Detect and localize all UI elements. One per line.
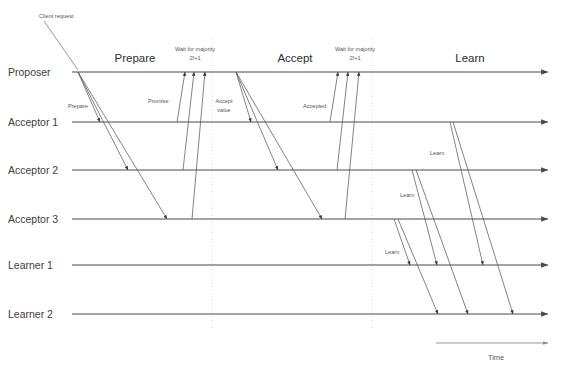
client-request-leader-line <box>44 21 78 70</box>
wait-majority-note-2-line1: Wait for majority <box>335 46 375 52</box>
lane-label-proposer: Proposer <box>8 66 51 78</box>
message-accepted-from-acceptor3 <box>345 72 359 219</box>
message-learn-acceptor2-to-learner2 <box>416 170 468 314</box>
wait-majority-notes: Wait for majority 2f+1 Wait for majority… <box>175 46 375 61</box>
message-promise-from-acceptor2 <box>183 72 194 170</box>
lane-label-acceptor2: Acceptor 2 <box>8 164 58 176</box>
lane-label-acceptor3: Acceptor 3 <box>8 213 58 225</box>
message-accept-to-acceptor3 <box>236 72 322 219</box>
message-label-accept-value-line2: value <box>217 107 230 113</box>
messages-prepare: Prepare <box>68 72 167 219</box>
phase-label-prepare: Prepare <box>115 52 156 64</box>
message-promise-from-acceptor1 <box>177 72 185 122</box>
lane-labels: Proposer Acceptor 1 Acceptor 2 Acceptor … <box>8 66 58 320</box>
message-accept-to-acceptor2 <box>236 72 278 170</box>
messages-accept: Accept value <box>215 72 322 219</box>
message-learn-acceptor1-to-learner1 <box>450 122 483 265</box>
message-learn-acceptor1-to-learner2 <box>453 122 513 314</box>
phase-label-learn: Learn <box>455 52 484 64</box>
message-label-promise: Promise <box>148 98 169 104</box>
message-prepare-to-acceptor3 <box>78 72 167 219</box>
message-label-learn-acceptor3: Learn <box>385 249 399 255</box>
message-label-accepted: Accepted <box>303 103 326 109</box>
message-prepare-to-acceptor2 <box>78 72 128 170</box>
wait-majority-note-1-line2: 2f+1 <box>189 55 200 61</box>
message-accepted-from-acceptor2 <box>337 72 348 170</box>
messages-accepted: Accepted <box>303 72 359 219</box>
message-accepted-from-acceptor1 <box>330 72 338 122</box>
time-axis-label: Time <box>488 353 504 362</box>
phase-label-accept: Accept <box>277 52 313 64</box>
message-prepare-to-acceptor1 <box>78 72 100 122</box>
paxos-sequence-diagram: Proposer Acceptor 1 Acceptor 2 Acceptor … <box>0 0 564 371</box>
message-label-accept-value-line1: Accept <box>215 98 233 104</box>
message-label-prepare: Prepare <box>68 103 88 109</box>
message-learn-acceptor3-to-learner2 <box>398 219 438 314</box>
lane-label-learner2: Learner 2 <box>8 308 53 320</box>
wait-majority-note-1-line1: Wait for majority <box>175 46 215 52</box>
phase-labels: Prepare Accept Learn <box>115 52 485 64</box>
lane-label-learner1: Learner 1 <box>8 259 53 271</box>
message-label-learn-acceptor2: Learn <box>400 192 414 198</box>
message-promise-from-acceptor3 <box>192 72 205 219</box>
lane-label-acceptor1: Acceptor 1 <box>8 116 58 128</box>
diagram-canvas: Proposer Acceptor 1 Acceptor 2 Acceptor … <box>0 0 564 371</box>
client-request-callout: Client request <box>39 13 78 70</box>
time-axis: Time <box>436 343 548 362</box>
messages-promise: Promise <box>148 72 205 219</box>
message-accept-to-acceptor1 <box>236 72 251 122</box>
message-label-learn-acceptor1: Learn <box>430 150 444 156</box>
client-request-label: Client request <box>39 13 74 19</box>
messages-learn: Learn Learn Learn <box>385 122 513 314</box>
wait-majority-note-2-line2: 2f+1 <box>349 55 360 61</box>
